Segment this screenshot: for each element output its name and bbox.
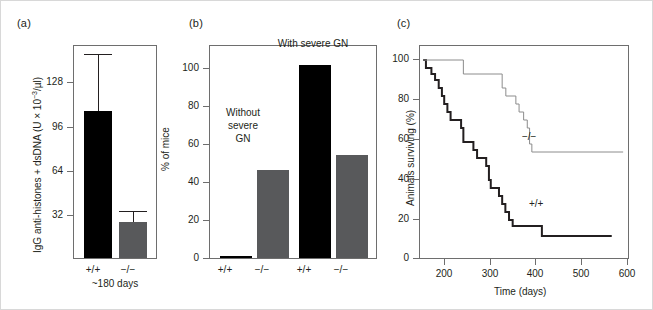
panel-c-xtick-label-500: 500 — [561, 268, 601, 279]
panel-c-tick-80 — [413, 99, 419, 100]
bar-b-with-wt — [299, 65, 331, 258]
bar-a-wt — [84, 111, 112, 258]
panel-b-tick-100 — [203, 68, 209, 69]
panel-c-xtick-600 — [627, 259, 628, 265]
panel-c-tick-40 — [413, 179, 419, 180]
panel-c-xtick-400 — [535, 259, 536, 265]
panel-b-xcat-4: −/− — [321, 264, 361, 275]
panel-b-tick-20 — [203, 220, 209, 221]
panel-c-survival-curves — [420, 46, 630, 260]
panel-c-xtick-label-300: 300 — [470, 268, 510, 279]
panel-a-xcat-ko: −/− — [98, 264, 158, 275]
bar-b-without-ko — [257, 170, 289, 258]
panel-c-tick-label-20: 20 — [379, 213, 409, 224]
panel-b-tick-40 — [203, 182, 209, 183]
panel-a-y-axis-title-exponent: −3 — [31, 91, 38, 99]
panel-a-tick-label-64: 64 — [37, 165, 63, 176]
bar-b-with-ko — [336, 155, 368, 258]
errorbar-a-wt — [84, 54, 112, 111]
panel-b-annotation-with: With severe GN — [249, 37, 377, 50]
panel-c: (c) Animals surviving (%) 0 20 40 60 80 … — [391, 1, 653, 310]
panel-c-xtick-label-600: 600 — [607, 268, 647, 279]
panel-c-tick-label-80: 80 — [379, 93, 409, 104]
panel-b-annotation-without: Without severe GN — [205, 106, 281, 145]
panel-c-letter: (c) — [397, 17, 410, 29]
panel-b-tick-label-80: 80 — [169, 100, 199, 111]
panel-b-tick-label-40: 40 — [169, 176, 199, 187]
panel-c-tick-100 — [413, 59, 419, 60]
panel-c-xtick-label-200: 200 — [424, 268, 464, 279]
panel-b-tick-0 — [203, 258, 209, 259]
panel-c-y-axis-title: Animals surviving (%) — [405, 110, 416, 206]
panel-b-y-axis-title: % of mice — [160, 127, 171, 171]
panel-b-xcat-3: +/+ — [284, 264, 324, 275]
panel-b-tick-label-100: 100 — [169, 62, 199, 73]
panel-c-tick-label-0: 0 — [379, 252, 409, 263]
panel-a-tick-96 — [67, 127, 73, 128]
panel-b-plot-area — [209, 45, 377, 259]
panel-a-tick-label-32: 32 — [37, 209, 63, 220]
panel-c-xtick-500 — [581, 259, 582, 265]
panel-c-tick-20 — [413, 219, 419, 220]
panel-c-tick-label-100: 100 — [379, 53, 409, 64]
panel-a-tick-128 — [67, 82, 73, 83]
errorbar-a-ko — [119, 211, 147, 222]
panel-b: (b) % of mice 0 20 40 60 80 100 Without … — [181, 1, 391, 310]
panel-b-tick-label-20: 20 — [169, 214, 199, 225]
panel-a-plot-area — [73, 45, 157, 259]
panel-c-tick-label-60: 60 — [379, 133, 409, 144]
panel-c-tick-60 — [413, 139, 419, 140]
panel-a-tick-label-96: 96 — [37, 121, 63, 132]
panel-c-tick-0 — [413, 258, 419, 259]
panel-c-xtick-label-400: 400 — [515, 268, 555, 279]
panel-b-xcat-1: +/+ — [205, 264, 245, 275]
bar-b-without-wt — [220, 256, 252, 258]
km-curve-++ — [423, 60, 612, 236]
panel-c-xtick-200 — [444, 259, 445, 265]
panel-a-subcaption: ~180 days — [65, 278, 165, 289]
panel-b-tick-label-0: 0 — [169, 252, 199, 263]
panel-c-curve-label-wt: +/+ — [529, 198, 543, 209]
panel-c-curve-label-ko: −/− — [522, 131, 536, 142]
panel-b-tick-label-60: 60 — [169, 138, 199, 149]
panel-a-tick-label-128: 128 — [37, 76, 63, 87]
panel-c-x-axis-title: Time (days) — [494, 286, 546, 297]
panel-b-letter: (b) — [189, 17, 203, 29]
panel-a-tick-64 — [67, 171, 73, 172]
panel-c-xtick-300 — [490, 259, 491, 265]
panel-b-xcat-2: −/− — [242, 264, 282, 275]
bar-a-ko — [119, 222, 147, 258]
panel-c-tick-label-40: 40 — [379, 173, 409, 184]
panel-a-tick-32 — [67, 215, 73, 216]
panel-c-plot-area — [419, 45, 629, 259]
panel-a-letter: (a) — [17, 17, 31, 29]
figure-container: (a) IgG anti-histones + dsDNA (U × 10−3/… — [0, 0, 653, 310]
panel-a: (a) IgG anti-histones + dsDNA (U × 10−3/… — [1, 1, 181, 310]
